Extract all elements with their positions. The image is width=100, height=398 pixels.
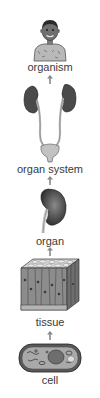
- up-arrow-icon: [47, 331, 53, 340]
- organ-system-label: organ system: [0, 163, 100, 175]
- up-arrow-icon: [47, 176, 53, 185]
- organ-illustration: [34, 187, 68, 235]
- tissue-label: tissue: [0, 316, 100, 328]
- tissue-illustration: [19, 258, 81, 314]
- organism-label: organism: [0, 61, 100, 73]
- organ-system-illustration: [22, 84, 78, 164]
- up-arrow-icon: [47, 75, 53, 84]
- cell-label: cell: [0, 374, 100, 386]
- organism-illustration: [30, 17, 70, 62]
- up-arrow-icon: [47, 247, 53, 256]
- organ-label: organ: [0, 235, 100, 247]
- cell-illustration: [18, 343, 82, 373]
